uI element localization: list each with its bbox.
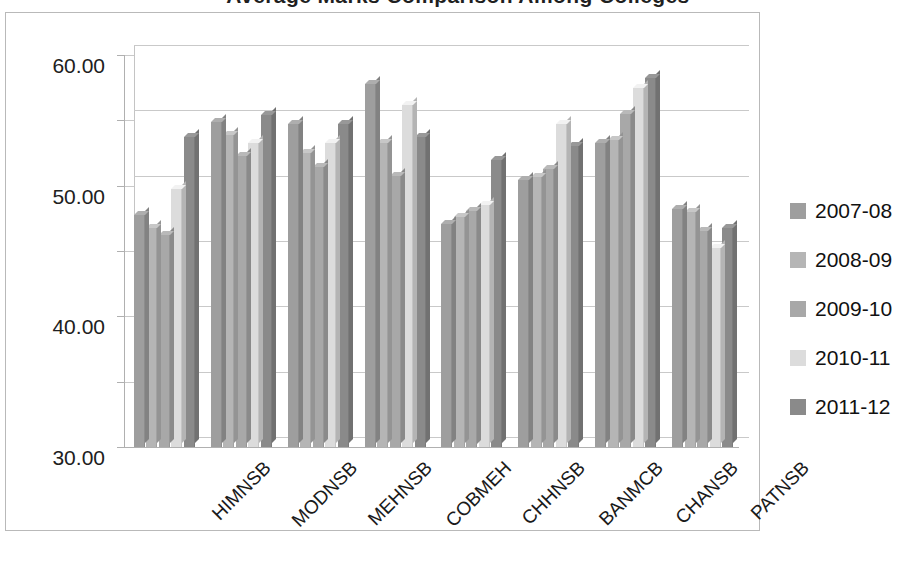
bar (134, 215, 145, 447)
bar-side (324, 159, 328, 443)
bar-group (518, 55, 579, 447)
legend-swatch-icon (790, 399, 806, 415)
y-axis-tick: 30.00 (117, 251, 124, 252)
y-axis-tick-label: 50.00 (52, 185, 105, 209)
bar-side (222, 114, 226, 443)
x-axis-category-label: PATNSB (746, 457, 813, 524)
clipped-chart-title-text: Average Marks Comparison Among Colleges (0, 0, 916, 7)
bar-side (606, 135, 610, 443)
y-axis-tick: 10.00 (117, 382, 124, 383)
bar-group (365, 55, 426, 447)
bar (672, 209, 683, 447)
bar-side (426, 129, 430, 443)
gridline (134, 45, 749, 46)
legend-item: 2010-11 (790, 333, 910, 382)
legend-swatch-icon (790, 203, 806, 219)
bar-side (696, 204, 700, 443)
legend-item-label: 2007-08 (815, 199, 892, 223)
x-axis-category-label: CHHNSB (517, 457, 589, 529)
bar-side (631, 106, 635, 443)
plot-area: 0.0010.0020.0030.0040.0050.0060.00 (124, 45, 749, 447)
legend: 2007-082008-092009-102010-112011-12 (790, 186, 910, 431)
x-axis-category-label: BANMCB (595, 457, 668, 530)
bar (518, 180, 529, 447)
y-axis-tick-label: 40.00 (52, 315, 105, 339)
legend-item-label: 2009-10 (815, 297, 892, 321)
y-axis-tick: 20.00 (117, 316, 124, 317)
x-axis-labels: HIMNSBMODNSBMEHNSBCOBMEHCHHNSBBANMCBCHAN… (124, 453, 749, 543)
bar-side (299, 116, 303, 443)
y-axis-tick: 60.00 (117, 55, 124, 56)
y-axis-tick: 50.00 (117, 120, 124, 121)
x-axis-category-label: COBMEH (441, 457, 516, 532)
clipped-chart-title: Average Marks Comparison Among Colleges (0, 0, 916, 12)
bar-face (365, 84, 376, 447)
bar-side (272, 107, 276, 443)
bar-side (656, 70, 660, 443)
bar (595, 143, 606, 447)
bar-side (388, 135, 392, 443)
bar-side (490, 197, 494, 443)
bar-side (619, 132, 623, 443)
bar (288, 124, 299, 447)
bar-group (672, 55, 733, 447)
bar-side (145, 207, 149, 443)
y-axis-tick-label: 20.00 (52, 577, 105, 581)
y-axis-tick-label: 60.00 (52, 54, 105, 78)
bar (211, 122, 222, 447)
bar-series-container (124, 55, 739, 447)
legend-item: 2011-12 (790, 382, 910, 431)
bar-face (672, 209, 683, 447)
bar-side (259, 135, 263, 443)
bar (441, 224, 452, 447)
bar-group (288, 55, 349, 447)
y-axis-tick: 0.00 (117, 447, 124, 448)
bar-side (644, 80, 648, 443)
bar-side (157, 220, 161, 443)
bar-side (502, 152, 506, 443)
bar-group (441, 55, 502, 447)
legend-item: 2009-10 (790, 284, 910, 333)
bar-face (441, 224, 452, 447)
bar-side (542, 169, 546, 443)
bar-side (452, 216, 456, 443)
bar-group (595, 55, 656, 447)
bar-side (182, 181, 186, 443)
bar-side (733, 220, 737, 443)
bar-face (288, 124, 299, 447)
bar-side (721, 240, 725, 443)
legend-swatch-icon (790, 301, 806, 317)
legend-item-label: 2011-12 (815, 395, 891, 419)
x-axis-category-label: CHANSB (671, 457, 743, 529)
bar-side (708, 223, 712, 443)
bar-side (401, 168, 405, 443)
x-axis-category-label: HIMNSB (208, 457, 276, 525)
bar (365, 84, 376, 447)
bar-side (336, 135, 340, 443)
bar-side (683, 201, 687, 443)
bar-group (134, 55, 195, 447)
bar-side (529, 172, 533, 443)
bar-face (518, 180, 529, 447)
x-axis-category-label: MEHNSB (364, 457, 437, 530)
bar-side (349, 116, 353, 443)
legend-item-label: 2008-09 (815, 248, 892, 272)
bar-side (465, 209, 469, 443)
legend-item-label: 2010-11 (815, 346, 891, 370)
bar-side (579, 138, 583, 443)
legend-swatch-icon (790, 252, 806, 268)
bar-group (211, 55, 272, 447)
legend-swatch-icon (790, 350, 806, 366)
x-axis-category-label: MODNSB (288, 457, 363, 532)
bar-side (234, 127, 238, 443)
legend-item: 2008-09 (790, 235, 910, 284)
bar-side (413, 97, 417, 443)
y-axis-tick-label: 30.00 (52, 446, 105, 470)
bar-side (170, 227, 174, 443)
bar-side (567, 116, 571, 443)
y-axis-tick: 40.00 (117, 186, 124, 187)
bar-side (311, 145, 315, 443)
bar-face (595, 143, 606, 447)
bar-side (247, 148, 251, 443)
bar-side (477, 203, 481, 444)
